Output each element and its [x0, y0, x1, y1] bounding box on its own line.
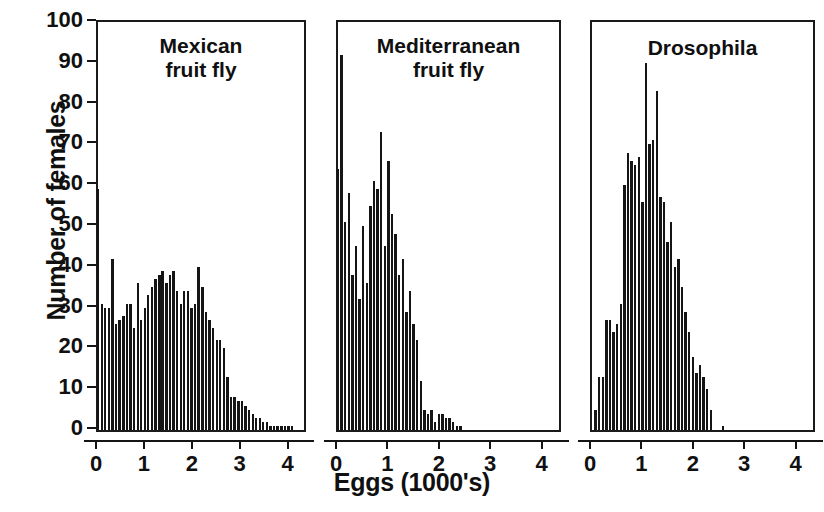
y-tick-mark	[87, 427, 96, 429]
histogram-bar	[380, 132, 382, 430]
plot-area-2	[592, 22, 813, 430]
histogram-bar	[634, 165, 636, 430]
histogram-bar	[230, 397, 232, 430]
histogram-bar	[373, 181, 375, 430]
y-tick-label: 80	[21, 91, 83, 113]
histogram-bar	[438, 414, 440, 430]
x-tick-label: 4	[273, 453, 303, 475]
y-tick-mark	[87, 141, 96, 143]
histogram-bar	[233, 397, 235, 430]
histogram-bar	[456, 426, 458, 430]
histogram-bar	[237, 401, 239, 430]
histogram-bar	[284, 426, 286, 430]
histogram-bar	[201, 287, 203, 430]
x-tick-mark	[489, 440, 491, 449]
histogram-bar	[241, 401, 243, 430]
x-tick-label: 0	[575, 453, 605, 475]
histogram-bar	[147, 295, 149, 430]
y-tick-label: 40	[21, 254, 83, 276]
histogram-bar	[405, 312, 407, 430]
histogram-bar	[409, 291, 411, 430]
histogram-bar	[276, 426, 278, 430]
histogram-bar	[144, 308, 146, 430]
histogram-bar	[216, 340, 218, 430]
histogram-bar	[97, 189, 99, 430]
histogram-bar	[187, 291, 189, 430]
histogram-bar	[165, 283, 167, 430]
x-tick-label: 3	[475, 453, 505, 475]
histogram-bar	[208, 320, 210, 430]
panel-drosophila: Drosophila	[590, 20, 815, 432]
histogram-bar	[172, 271, 174, 430]
x-tick-mark	[692, 440, 694, 449]
x-tick-label: 4	[781, 453, 811, 475]
histogram-bar	[154, 279, 156, 430]
y-tick-mark	[87, 305, 96, 307]
plot-area-1	[338, 22, 559, 430]
histogram-bar	[722, 426, 724, 430]
histogram-bar	[248, 410, 250, 430]
y-tick-mark	[87, 223, 96, 225]
x-tick-label: 4	[527, 453, 557, 475]
y-tick-label: 30	[21, 295, 83, 317]
y-tick-mark	[87, 182, 96, 184]
histogram-bar	[620, 304, 622, 430]
histogram-bar	[140, 320, 142, 430]
histogram-bar	[197, 267, 199, 430]
histogram-bar	[684, 312, 686, 430]
histogram-bar	[416, 340, 418, 430]
histogram-bar	[137, 283, 139, 430]
y-tick-label: 10	[21, 376, 83, 398]
x-tick-label: 1	[129, 453, 159, 475]
histogram-bar	[366, 283, 368, 430]
y-tick-mark	[87, 60, 96, 62]
x-tick-mark	[287, 440, 289, 449]
histogram-bar	[710, 410, 712, 430]
histogram-bar	[169, 275, 171, 430]
histogram-bar	[706, 389, 708, 430]
histogram-bar	[677, 259, 679, 430]
histogram-bar	[266, 422, 268, 430]
histogram-bar	[133, 328, 135, 430]
x-tick-mark	[239, 440, 241, 449]
histogram-bar	[351, 275, 353, 430]
x-tick-mark	[191, 440, 193, 449]
histogram-bar	[441, 414, 443, 430]
histogram-bar	[219, 340, 221, 430]
y-tick-label: 50	[21, 213, 83, 235]
histogram-bar	[194, 304, 196, 430]
histogram-bar	[158, 275, 160, 430]
histogram-bar	[362, 226, 364, 430]
y-tick-mark	[87, 19, 96, 21]
histogram-bar	[244, 406, 246, 430]
histogram-bar	[445, 418, 447, 430]
x-tick-mark	[335, 440, 337, 449]
histogram-bar	[255, 418, 257, 430]
histogram-bar	[434, 422, 436, 430]
histogram-bar	[115, 324, 117, 430]
histogram-bar	[376, 189, 378, 430]
histogram-bar	[111, 259, 113, 430]
x-tick-label: 2	[424, 453, 454, 475]
histogram-bar	[269, 426, 271, 430]
histogram-bar	[616, 324, 618, 430]
panel-mexican-fruit-fly: Mexican fruit fly	[96, 20, 306, 432]
histogram-bar	[648, 144, 650, 430]
histogram-bar	[190, 308, 192, 430]
histogram-bar	[681, 287, 683, 430]
histogram-bar	[369, 206, 371, 430]
histogram-bar	[641, 202, 643, 430]
histogram-bar	[652, 140, 654, 430]
y-tick-mark	[87, 386, 96, 388]
x-tick-label: 2	[177, 453, 207, 475]
histogram-bar	[180, 304, 182, 430]
x-tick-mark	[386, 440, 388, 449]
histogram-bar	[205, 312, 207, 430]
histogram-bar	[612, 332, 614, 430]
histogram-bar	[605, 320, 607, 430]
histogram-bar	[212, 328, 214, 430]
y-tick-mark	[87, 264, 96, 266]
histogram-bar	[402, 259, 404, 430]
histogram-bar	[674, 267, 676, 430]
x-tick-mark	[143, 440, 145, 449]
